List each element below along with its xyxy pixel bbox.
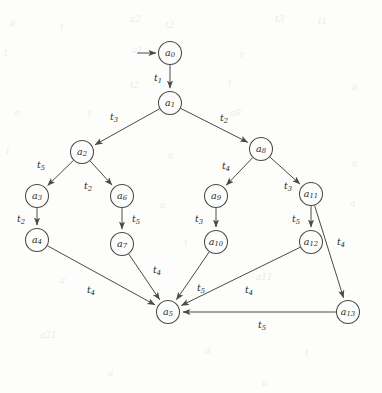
edge-a1-to-a8 xyxy=(181,108,248,142)
edge-label-a9-to-a10: t3 xyxy=(195,213,203,226)
edge-a11-to-a13 xyxy=(315,206,344,298)
node-a8[interactable]: a8 xyxy=(250,138,273,161)
node-a13[interactable]: a13 xyxy=(337,301,360,324)
edge-label-a12-to-a5: t4 xyxy=(245,284,253,297)
edge-a4-to-a5 xyxy=(48,246,155,305)
node-a12[interactable]: a12 xyxy=(300,231,323,254)
edge-label-a8-to-a9: t4 xyxy=(222,160,230,173)
edge-label-a3-to-a4: t2 xyxy=(17,213,25,226)
edge-a2-to-a6 xyxy=(90,161,112,185)
edge-label-a0-to-a1: t1 xyxy=(154,72,162,85)
edge-label-a11-to-a12: t5 xyxy=(292,213,300,226)
edge-label-a8-to-a11: t3 xyxy=(284,180,292,193)
edge-a8-to-a9 xyxy=(226,158,252,186)
node-a11[interactable]: a11 xyxy=(300,183,323,206)
node-a4[interactable]: a4 xyxy=(26,229,49,252)
edge-a12-to-a5 xyxy=(181,247,300,305)
node-a3[interactable]: a3 xyxy=(26,185,49,208)
node-a5[interactable]: a5 xyxy=(157,301,180,324)
edge-a2-to-a3 xyxy=(48,160,74,185)
edge-a1-to-a2 xyxy=(95,109,159,145)
node-a2[interactable]: a2 xyxy=(71,141,94,164)
edge-label-a6-to-a7: t5 xyxy=(132,213,140,226)
node-a10[interactable]: a10 xyxy=(205,231,228,254)
edge-label-a1-to-a2: t3 xyxy=(110,111,118,124)
nodes-layer: a0a1a2a3a4a5a6a7a8a9a10a11a12a13 xyxy=(26,42,360,324)
edge-label-a1-to-a8: t2 xyxy=(220,112,228,125)
edge-label-a13-to-a5: t5 xyxy=(258,319,266,332)
figure-canvas: ata2t2t3t1ta1tt2taata9taaaata11aa21ataa … xyxy=(0,0,382,393)
edge-label-a2-to-a6: t2 xyxy=(84,180,92,193)
node-a6[interactable]: a6 xyxy=(111,185,134,208)
edge-label-a11-to-a13: t4 xyxy=(337,236,345,249)
edge-label-a4-to-a5: t4 xyxy=(87,284,95,297)
edge-label-a7-to-a5: t4 xyxy=(153,264,161,277)
node-a9[interactable]: a9 xyxy=(205,185,228,208)
state-transition-graph: a0a1a2a3a4a5a6a7a8a9a10a11a12a13 t1t3t2t… xyxy=(0,0,382,393)
node-a7[interactable]: a7 xyxy=(111,233,134,256)
node-a1[interactable]: a1 xyxy=(159,92,182,115)
edge-label-a10-to-a5: t5 xyxy=(197,282,205,295)
node-a0[interactable]: a0 xyxy=(159,42,182,65)
edge-label-a2-to-a3: t5 xyxy=(37,159,45,172)
